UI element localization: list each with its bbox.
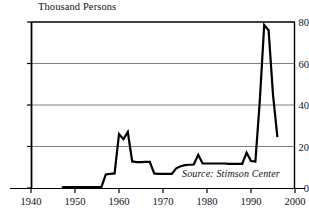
- x-tick-label-1940: 1940: [11, 196, 51, 207]
- chart-figure: Thousand Persons 80 60 40 20 0 1940 1950…: [0, 0, 309, 219]
- x-tick-label-1970: 1970: [143, 196, 183, 207]
- x-tick-label-1990: 1990: [231, 196, 271, 207]
- data-series-line: [62, 25, 278, 187]
- y-tick-marks: [27, 22, 31, 188]
- source-annotation: Source: Stimson Center: [182, 168, 280, 179]
- y-tick-label-40: 40: [283, 100, 309, 111]
- y-tick-label-0: 0: [283, 183, 309, 194]
- y-tick-label-20: 20: [283, 141, 309, 152]
- x-tick-label-1980: 1980: [187, 196, 227, 207]
- y-tick-label-80: 80: [283, 17, 309, 28]
- plot-area: [0, 0, 309, 219]
- y-axis-title: Thousand Persons: [38, 1, 116, 12]
- y-tick-label-60: 60: [283, 58, 309, 69]
- gridlines: [31, 64, 295, 147]
- x-tick-label-1950: 1950: [55, 196, 95, 207]
- x-tick-label-2000: 2000: [275, 196, 309, 207]
- x-tick-label-1960: 1960: [99, 196, 139, 207]
- x-tick-marks: [31, 189, 295, 194]
